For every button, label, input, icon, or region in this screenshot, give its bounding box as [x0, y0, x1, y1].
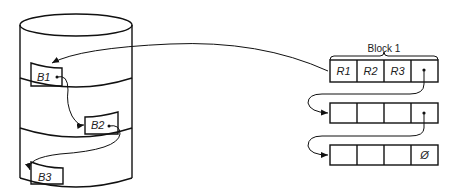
disk-block-b3: B3 [31, 162, 63, 184]
block-label-b1: B1 [37, 71, 50, 83]
block-label-b2: B2 [91, 119, 104, 131]
disk-cylinder [20, 14, 132, 187]
chain-row-3: Ø [330, 145, 438, 165]
arrow-row2-to-row3 [308, 113, 424, 155]
block-label-b3: B3 [38, 171, 52, 183]
null-pointer: Ø [419, 149, 430, 161]
arrow-b2-to-b3 [30, 126, 120, 170]
cell-r1: R1 [336, 65, 350, 77]
chain-row-2 [330, 103, 438, 123]
cell-r2: R2 [363, 65, 377, 77]
cell-r3: R3 [390, 65, 405, 77]
arrow-b1-to-b2 [57, 77, 84, 126]
brace [330, 52, 438, 60]
disk-block-b2: B2 [85, 112, 118, 134]
linked-blocks-diagram: B1 B2 B3 Block 1 R1 R2 R3 [0, 0, 463, 192]
chain-row-1: R1 R2 R3 [330, 60, 438, 82]
arrow-head-to-b1 [52, 44, 328, 71]
